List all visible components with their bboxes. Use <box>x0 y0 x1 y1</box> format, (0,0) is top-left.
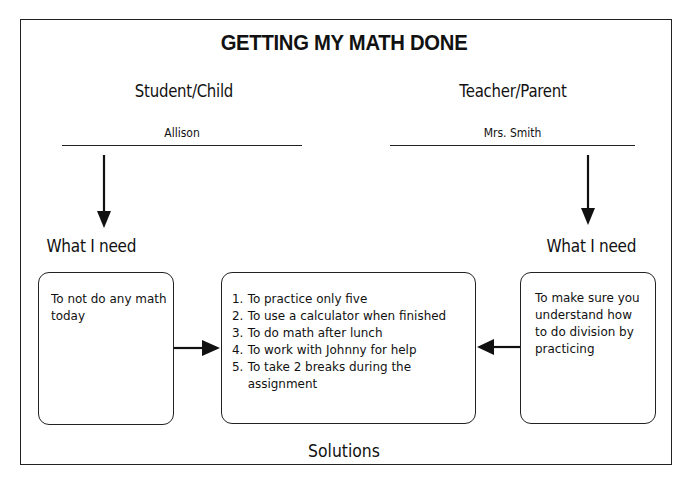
teacher-down-arrow-icon <box>581 155 595 225</box>
right-arrow-icon <box>174 340 220 356</box>
student-down-arrow-icon <box>97 155 111 228</box>
left-arrow-icon <box>477 339 520 355</box>
arrows-layer <box>0 0 688 486</box>
